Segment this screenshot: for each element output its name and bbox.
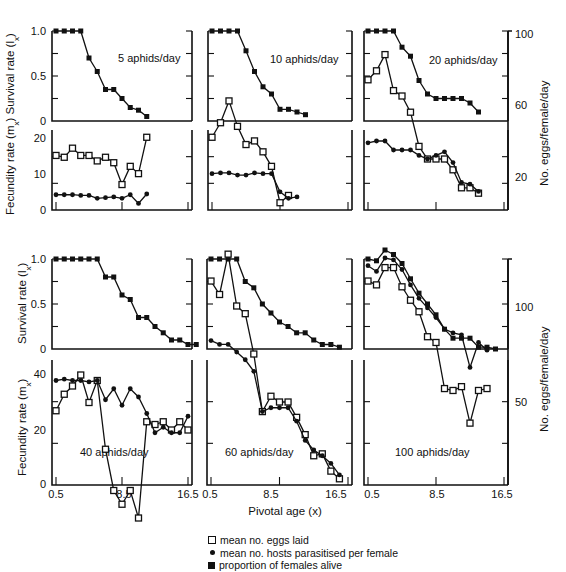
svg-text:100: 100 [515, 28, 533, 40]
filled-square-icon [208, 562, 215, 569]
open-square-icon [208, 536, 216, 544]
svg-text:0: 0 [40, 204, 46, 216]
svg-text:1.0: 1.0 [31, 25, 46, 37]
svg-text:40 aphids/day: 40 aphids/day [80, 446, 149, 458]
svg-text:20: 20 [34, 132, 46, 144]
svg-text:5 aphids/day: 5 aphids/day [118, 52, 181, 64]
svg-text:60: 60 [515, 99, 527, 111]
svg-text:8.5: 8.5 [263, 488, 278, 500]
legend-item-eggs: mean no. eggs laid [208, 534, 398, 547]
legend-item-hosts: mean no. hosts parasitised per female [208, 547, 398, 560]
svg-text:0.5: 0.5 [48, 488, 63, 500]
top-left-tick-labels: 1.0 0.5 0 20 10 0 [31, 25, 46, 216]
svg-text:100: 100 [515, 301, 533, 313]
svg-text:10 aphids/day: 10 aphids/day [270, 53, 339, 65]
left-axis-title-bottom-fecundity: Fecundity rate (mx) [16, 379, 33, 476]
svg-text:0.5: 0.5 [202, 488, 217, 500]
svg-text:20 aphids/day: 20 aphids/day [429, 54, 498, 66]
svg-text:60 aphids/day: 60 aphids/day [225, 446, 294, 458]
svg-text:20: 20 [515, 171, 527, 183]
left-axis-title-top-row: Fecundity rate (mx) Survival rate (lx) [4, 33, 21, 215]
legend: mean no. eggs laid mean no. hosts parasi… [208, 534, 398, 572]
svg-text:0.5: 0.5 [364, 488, 379, 500]
legend-item-alive: proportion of females alive [208, 559, 398, 572]
svg-text:40: 40 [34, 368, 46, 380]
svg-text:8.5: 8.5 [429, 488, 444, 500]
figure-canvas: Fecundity rate (mx) Survival rate (lx) S… [0, 0, 566, 572]
svg-text:0: 0 [40, 343, 46, 355]
bottom-left-tick-labels: 1.0 0.5 0 40 20 0 [31, 253, 46, 490]
svg-text:16.5: 16.5 [177, 488, 198, 500]
bottom-right-tick-labels: 100 50 [515, 301, 533, 408]
svg-text:0.5: 0.5 [31, 70, 46, 82]
svg-text:1.0: 1.0 [31, 253, 46, 265]
svg-text:100 aphids/day: 100 aphids/day [395, 446, 470, 458]
dot-icon [210, 550, 215, 555]
x-axis-title: Pivotal age (x) [210, 505, 360, 517]
svg-text:16.5: 16.5 [325, 488, 346, 500]
right-axis-title-bottom: No. eggs/female/day [538, 326, 550, 432]
svg-text:50: 50 [515, 396, 527, 408]
svg-text:0.5: 0.5 [31, 298, 46, 310]
top-right-tick-labels: 100 60 20 [515, 28, 533, 183]
right-axis-title-top: No. eggs/female/day [538, 80, 550, 186]
svg-text:0: 0 [40, 115, 46, 127]
svg-text:16.5: 16.5 [491, 488, 512, 500]
svg-text:20: 20 [34, 424, 46, 436]
svg-text:10: 10 [34, 168, 46, 180]
svg-text:0: 0 [40, 478, 46, 490]
